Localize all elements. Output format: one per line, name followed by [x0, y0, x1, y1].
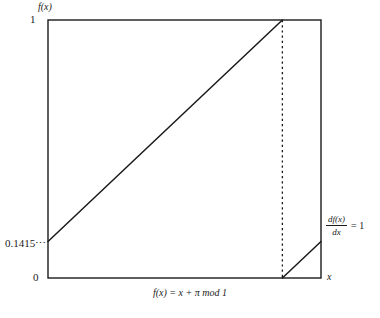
plot-frame	[48, 20, 321, 278]
derivative-annotation: df(x) dx = 1	[326, 214, 364, 238]
y-tick-value: 0.1415⋯	[5, 238, 46, 249]
derivative-numerator: df(x)	[326, 214, 347, 226]
y-axis-label: f(x)	[38, 2, 52, 12]
figure-sawtooth-plot: f(x) 1 0.1415⋯ 0 x df(x) dx = 1 f(x) = x…	[0, 0, 380, 318]
derivative-denominator: dx	[330, 226, 343, 237]
derivative-fraction: df(x) dx	[326, 214, 347, 238]
plot-canvas	[0, 0, 380, 318]
x-axis-label: x	[327, 272, 331, 282]
y-tick-top: 1	[30, 14, 36, 25]
derivative-equals: = 1	[351, 221, 364, 231]
y-tick-bottom: 0	[33, 272, 39, 283]
figure-caption: f(x) = x + π mod 1	[0, 288, 380, 298]
